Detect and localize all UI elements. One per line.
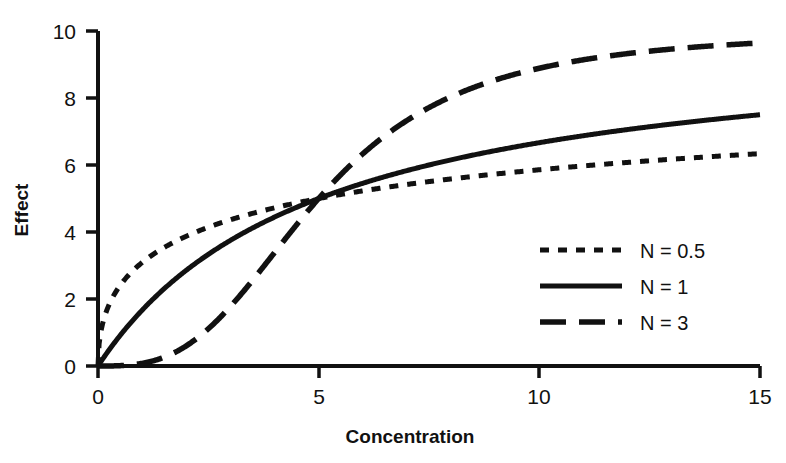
- legend: N = 0.5 N = 1 N = 3: [540, 240, 705, 334]
- y-tick-label-0: 0: [64, 355, 76, 378]
- y-tick-label-8: 8: [64, 87, 76, 110]
- y-tick-label-4: 4: [64, 221, 76, 244]
- y-tick-label-6: 6: [64, 154, 76, 177]
- x-tick-label-0: 0: [92, 385, 104, 408]
- dose-response-chart: 10 8 6 4 2 0 0 5 10 15 Concentration Eff…: [0, 0, 786, 463]
- x-axis-tick-labels: 0 5 10 15: [92, 385, 772, 408]
- x-tick-label-15: 15: [748, 385, 771, 408]
- y-axis-title: Effect: [11, 183, 32, 236]
- legend-label-n-1: N = 1: [640, 276, 688, 298]
- y-tick-label-10: 10: [53, 20, 76, 43]
- x-tick-label-5: 5: [313, 385, 325, 408]
- chart-page: 10 8 6 4 2 0 0 5 10 15 Concentration Eff…: [0, 0, 786, 463]
- y-axis-tick-labels: 10 8 6 4 2 0: [53, 20, 77, 378]
- x-tick-label-10: 10: [527, 385, 550, 408]
- x-axis-title: Concentration: [346, 426, 475, 447]
- legend-label-n-0point5: N = 0.5: [640, 240, 705, 262]
- y-tick-label-2: 2: [64, 288, 76, 311]
- legend-label-n-3: N = 3: [640, 312, 688, 334]
